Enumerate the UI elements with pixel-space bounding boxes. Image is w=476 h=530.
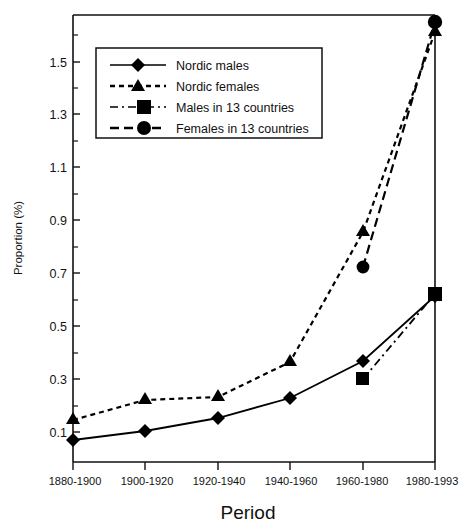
legend-label: Nordic females bbox=[176, 80, 259, 94]
data-point-marker-triangle bbox=[283, 354, 297, 366]
data-point-marker-diamond bbox=[283, 391, 297, 405]
y-tick-label: 1.3 bbox=[50, 108, 67, 122]
data-point-marker-diamond bbox=[211, 411, 225, 425]
legend-marker-circle bbox=[137, 121, 151, 135]
y-tick-label: 0.5 bbox=[50, 320, 67, 334]
y-tick-label: 0.9 bbox=[50, 214, 67, 228]
y-axis-title: Proportion (%) bbox=[12, 201, 24, 275]
y-tick-label: 0.3 bbox=[50, 373, 67, 387]
x-axis-ticks bbox=[73, 462, 435, 470]
legend-label: Females in 13 countries bbox=[176, 122, 309, 136]
x-tick-label: 1880-1900 bbox=[49, 475, 102, 487]
legend-label: Males in 13 countries bbox=[176, 101, 294, 115]
x-tick-label: 1960-1980 bbox=[336, 475, 389, 487]
x-tick-label: 1940-1960 bbox=[265, 475, 318, 487]
data-point-marker-triangle bbox=[356, 224, 370, 236]
x-axis-title: Period bbox=[221, 502, 276, 523]
x-axis-tick-labels: 1880-1900 1900-1920 1920-1940 1940-1960 … bbox=[49, 475, 459, 487]
chart-legend: Nordic males Nordic females Males in 13 … bbox=[96, 48, 322, 138]
y-tick-label: 0.7 bbox=[50, 267, 67, 281]
y-tick-label: 1.1 bbox=[50, 161, 67, 175]
y-tick-label: 0.1 bbox=[50, 426, 67, 440]
series-nordic-males bbox=[66, 289, 442, 447]
legend-marker-square bbox=[137, 100, 151, 114]
legend-entry-males-13-countries[interactable]: Males in 13 countries bbox=[110, 100, 294, 115]
data-point-marker-circle bbox=[357, 261, 370, 274]
y-axis-tick-labels: 1.5 1.3 1.1 0.9 0.7 0.5 0.3 0.1 bbox=[50, 56, 67, 440]
data-point-marker-triangle bbox=[138, 392, 152, 404]
x-tick-label: 1920-1940 bbox=[193, 475, 246, 487]
line-chart-svg: 1.5 1.3 1.1 0.9 0.7 0.5 0.3 0.1 Proporti… bbox=[0, 0, 476, 530]
data-point-marker-square bbox=[356, 372, 369, 385]
legend-label: Nordic males bbox=[176, 59, 249, 73]
data-point-marker-diamond bbox=[66, 433, 80, 447]
data-point-marker-triangle bbox=[66, 412, 80, 424]
series-females-13-countries bbox=[357, 15, 443, 274]
chart-figure: 1.5 1.3 1.1 0.9 0.7 0.5 0.3 0.1 Proporti… bbox=[0, 0, 476, 530]
series-line-females-13-countries bbox=[363, 22, 435, 267]
x-tick-label: 1900-1920 bbox=[121, 475, 174, 487]
series-line-nordic-males bbox=[73, 296, 435, 440]
data-point-marker-diamond bbox=[138, 424, 152, 438]
x-tick-label: 1980-1993 bbox=[406, 475, 459, 487]
y-tick-label: 1.5 bbox=[50, 56, 67, 70]
